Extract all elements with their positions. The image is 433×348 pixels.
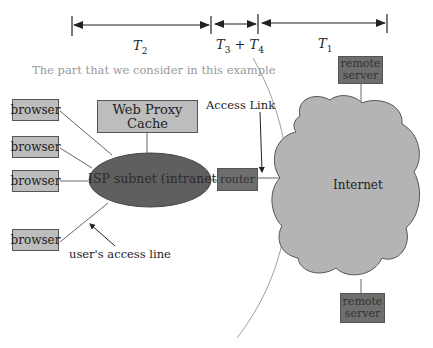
isp-subnet-label: ISP subnet (intranet) <box>88 173 222 186</box>
browser-node-2: browser <box>12 136 59 158</box>
access-link-arrow <box>260 112 262 172</box>
router-node: router <box>217 168 258 191</box>
timeline-arrows <box>74 23 385 25</box>
access-link-label: Access Link <box>206 100 275 112</box>
label-t3-plus-t4: T3 + T4 <box>216 38 264 55</box>
remote-server-top: remote server <box>338 56 383 84</box>
internet-label: Internet <box>333 179 383 191</box>
label-t1: T1 <box>318 37 332 54</box>
remote-server-bottom: remote server <box>340 293 385 323</box>
users-access-line-label: user's access line <box>69 249 171 261</box>
browser-node-1: browser <box>12 99 59 121</box>
browser-node-3: browser <box>12 170 59 192</box>
access-line-arrow <box>90 224 115 246</box>
browser-node-4: browser <box>12 229 59 251</box>
web-proxy-cache-node: Web Proxy Cache <box>97 100 198 133</box>
label-t2: T2 <box>133 39 147 56</box>
region-caption: The part that we consider in this exampl… <box>32 65 276 77</box>
